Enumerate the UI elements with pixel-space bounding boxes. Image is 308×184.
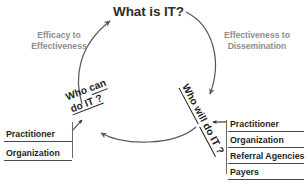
list-item: Payers [228, 166, 304, 180]
left-actors-list: Practitioner Organization [4, 128, 72, 166]
list-item: Referral Agencies [228, 150, 304, 164]
list-item: Practitioner [4, 128, 72, 142]
node-what-is-it: What is IT? [113, 4, 184, 19]
edge-label-effectiveness-to-dissemination: Effectiveness to Dissemination [210, 30, 304, 52]
diagram-canvas: What is IT? Efficacy to Effectiveness Ef… [0, 0, 308, 184]
edge-label-efficacy-to-effectiveness: Efficacy to Effectiveness [16, 30, 102, 52]
edge-label-line-1: Effectiveness to [224, 30, 290, 40]
edge-label-line-2: Dissemination [228, 41, 287, 51]
list-item: Organization [4, 147, 72, 161]
left-actors-bracket [72, 122, 73, 158]
list-item: Organization [228, 134, 304, 148]
list-item: Practitioner [228, 118, 304, 132]
edge-label-line-2: Effectiveness [31, 41, 86, 51]
arrow-left-actors-to-who-can [72, 120, 82, 131]
arc-who-will-to-who-can [101, 127, 196, 142]
right-actors-list: Practitioner Organization Referral Agenc… [228, 118, 304, 182]
edge-label-line-1: Efficacy to [37, 30, 80, 40]
right-actors-bracket [226, 120, 227, 174]
arc-effectiveness-to-dissemination [186, 12, 215, 94]
